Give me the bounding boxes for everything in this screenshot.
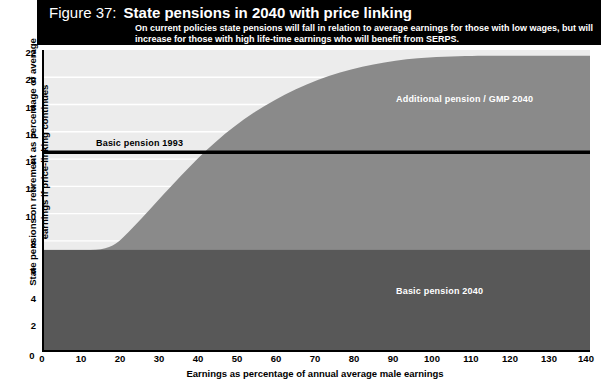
x-tick-140: 140 (571, 353, 601, 364)
x-tick-10: 10 (66, 353, 96, 364)
x-tick-100: 100 (417, 353, 447, 364)
x-tick-0: 0 (27, 353, 57, 364)
figure-container: Figure 37:State pensions in 2040 with pr… (0, 0, 601, 383)
y-axis-ticks: 22 20 18 16 14 12 10 8 6 4 2 0 (0, 0, 601, 383)
x-tick-80: 80 (339, 353, 369, 364)
x-tick-130: 130 (534, 353, 564, 364)
x-tick-20: 20 (105, 353, 135, 364)
x-tick-70: 70 (300, 353, 330, 364)
x-axis-label: Earnings as percentage of annual average… (42, 368, 588, 379)
x-tick-110: 110 (456, 353, 486, 364)
x-tick-120: 120 (495, 353, 525, 364)
x-tick-30: 30 (144, 353, 174, 364)
x-tick-90: 90 (378, 353, 408, 364)
x-tick-40: 40 (183, 353, 213, 364)
x-tick-60: 60 (261, 353, 291, 364)
y-tick-2: 2 (14, 320, 36, 331)
y-axis-label: State pensions on retirement as percenta… (27, 37, 51, 287)
x-tick-50: 50 (222, 353, 252, 364)
y-tick-4: 4 (14, 293, 36, 304)
